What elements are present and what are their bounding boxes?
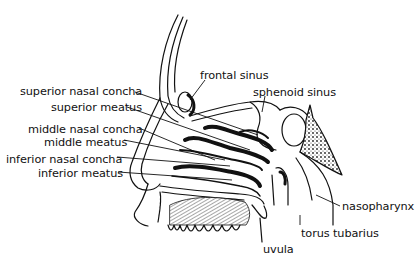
- label-inferior-meatus: inferior meatus: [38, 168, 123, 179]
- label-middle-nasal-concha: middle nasal concha: [28, 124, 142, 135]
- label-middle-meatus: middle meatus: [44, 137, 127, 148]
- label-nasopharynx: nasopharynx: [342, 201, 414, 212]
- label-uvula: uvula: [263, 244, 294, 255]
- label-frontal-sinus: frontal sinus: [200, 70, 268, 81]
- label-inferior-nasal-concha: inferior nasal concha: [6, 154, 122, 165]
- label-torus-tubarius: torus tubarius: [301, 228, 379, 239]
- label-superior-meatus: superior meatus: [51, 102, 142, 113]
- label-superior-nasal-concha: superior nasal concha: [20, 86, 142, 97]
- label-sphenoid-sinus: sphenoid sinus: [253, 87, 336, 98]
